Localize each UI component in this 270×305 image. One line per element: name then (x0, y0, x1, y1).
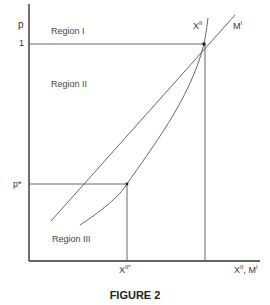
y-axis-label: p (18, 20, 24, 30)
x-tick-x-ii-star: XII* (119, 266, 131, 275)
x-axis-label: XII, MI (234, 266, 258, 275)
y-tick-1: 1 (19, 39, 24, 48)
x-ii-curve (80, 18, 208, 225)
region-i-label: Region I (51, 27, 85, 36)
m-i-curve-label: MI (233, 22, 242, 31)
region-ii-label: Region II (51, 80, 87, 89)
x-ii-curve-label: XII (193, 22, 202, 31)
y-tick-p-star: p* (13, 180, 22, 189)
m-i-curve (51, 15, 235, 221)
intersection-point-p-star (126, 183, 129, 186)
figure-caption: FIGURE 2 (0, 289, 270, 301)
intersection-point-top (202, 42, 206, 46)
figure-2-diagram: p 1 p* Region I Region II Region III XII… (0, 0, 270, 305)
region-iii-label: Region III (52, 235, 91, 244)
diagram-canvas (0, 0, 270, 305)
